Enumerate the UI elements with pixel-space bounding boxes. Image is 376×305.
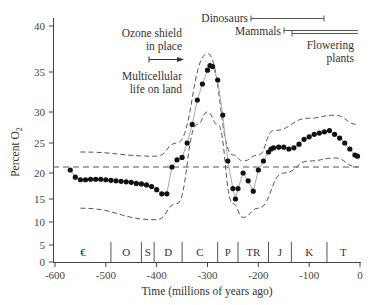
data-point <box>185 140 190 145</box>
data-point <box>190 122 195 127</box>
svg-text:P: P <box>225 246 231 258</box>
data-point <box>225 158 230 163</box>
data-point <box>240 170 245 175</box>
svg-text:-600: -600 <box>45 269 66 281</box>
svg-text:Mammals: Mammals <box>235 25 282 37</box>
svg-text:-500: -500 <box>96 269 117 281</box>
data-point <box>337 135 342 140</box>
annotation-flowering-plants: Flowering plants <box>292 31 358 66</box>
data-point <box>210 64 215 69</box>
data-point <box>327 128 332 133</box>
data-point <box>271 145 276 150</box>
data-point <box>139 181 144 186</box>
svg-text:Multicellular: Multicellular <box>122 70 182 82</box>
data-point <box>233 196 238 201</box>
svg-text:S: S <box>145 246 151 258</box>
data-point <box>68 167 73 172</box>
data-point <box>347 146 352 151</box>
data-point <box>154 187 159 192</box>
svg-text:Ozone shield: Ozone shield <box>122 27 183 39</box>
data-point <box>103 177 108 182</box>
annotation-mammals: Mammals <box>235 25 358 37</box>
data-point <box>174 157 179 162</box>
data-point <box>200 81 205 86</box>
svg-text:35: 35 <box>34 66 46 78</box>
svg-text:T: T <box>340 246 347 258</box>
svg-text:-300: -300 <box>197 269 218 281</box>
svg-text:-100: -100 <box>299 269 320 281</box>
data-point <box>322 129 327 134</box>
data-point <box>276 145 281 150</box>
data-point <box>169 164 174 169</box>
svg-text:10: 10 <box>34 216 46 228</box>
data-point <box>73 175 78 180</box>
y-axis-title: Percent O2 <box>9 127 24 177</box>
data-point <box>251 189 256 194</box>
svg-text:40: 40 <box>34 20 46 32</box>
data-point <box>205 68 210 73</box>
data-point <box>144 182 149 187</box>
data-point <box>93 177 98 182</box>
data-point <box>134 181 139 186</box>
data-point <box>129 180 134 185</box>
data-point <box>149 184 154 189</box>
data-point <box>124 179 129 184</box>
data-point <box>215 77 220 82</box>
data-point <box>195 97 200 102</box>
svg-text:plants: plants <box>327 52 355 65</box>
data-point <box>246 178 251 183</box>
data-point <box>78 177 83 182</box>
data-point <box>235 186 240 191</box>
data-point <box>164 191 169 196</box>
data-point <box>307 134 312 139</box>
svg-text:15: 15 <box>34 193 46 205</box>
data-point <box>291 145 296 150</box>
data-point <box>296 142 301 147</box>
svg-text:Dinosaurs: Dinosaurs <box>201 12 248 24</box>
svg-text:K: K <box>305 246 313 258</box>
svg-text:C: C <box>196 246 203 258</box>
svg-text:0: 0 <box>357 269 363 281</box>
svg-text:30: 30 <box>34 106 46 118</box>
data-point <box>118 179 123 184</box>
x-axis-title: Time (millions of years ago) <box>141 285 272 298</box>
svg-text:TR: TR <box>246 246 261 258</box>
data-point <box>98 177 103 182</box>
svg-text:5: 5 <box>40 239 46 251</box>
data-point <box>355 154 360 159</box>
data-point <box>301 137 306 142</box>
svg-text:life on land: life on land <box>130 83 183 95</box>
data-point <box>179 155 184 160</box>
svg-text:20: 20 <box>34 167 46 179</box>
data-point <box>312 132 317 137</box>
data-point <box>332 132 337 137</box>
axes: 0510152025303540-600-500-400-300-200-100… <box>34 18 363 281</box>
svg-text:0: 0 <box>40 256 46 268</box>
svg-text:€: € <box>80 246 86 258</box>
data-point <box>342 140 347 145</box>
geologic-period-bar: €OSDCPTRJKT <box>80 242 347 262</box>
data-point <box>108 178 113 183</box>
svg-text:D: D <box>164 246 172 258</box>
data-point <box>113 178 118 183</box>
data-point <box>317 130 322 135</box>
annotation-multicellular-life: Multicellular life on land <box>122 70 182 95</box>
data-point <box>230 186 235 191</box>
svg-text:25: 25 <box>34 137 46 149</box>
oxygen-history-chart: 0510152025303540-600-500-400-300-200-100… <box>0 0 376 305</box>
data-point <box>83 177 88 182</box>
svg-text:Flowering: Flowering <box>307 39 355 52</box>
data-point <box>281 145 286 150</box>
data-point <box>220 113 225 118</box>
data-point <box>88 177 93 182</box>
svg-text:O: O <box>122 246 130 258</box>
svg-text:J: J <box>278 246 283 258</box>
data-point <box>256 167 261 172</box>
annotation-dinosaurs: Dinosaurs <box>201 12 324 24</box>
svg-text:-400: -400 <box>147 269 168 281</box>
data-point <box>261 158 266 163</box>
data-point <box>286 146 291 151</box>
svg-text:-200: -200 <box>248 269 269 281</box>
annotation-ozone-shield: Ozone shield in place <box>122 27 184 63</box>
data-point <box>159 191 164 196</box>
